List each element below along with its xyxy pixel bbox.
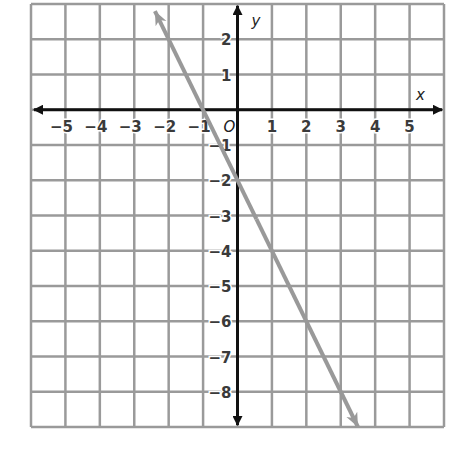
y-tick-label: 2 <box>221 31 231 49</box>
y-tick-label: −5 <box>208 278 231 296</box>
y-axis-label: y <box>251 12 262 30</box>
x-tick-label: 4 <box>370 118 380 136</box>
x-tick-label: 2 <box>301 118 311 136</box>
x-tick-label: −3 <box>119 118 142 136</box>
origin-label: O <box>224 118 236 136</box>
x-tick-label: 1 <box>267 118 277 136</box>
y-tick-label: −2 <box>208 172 231 190</box>
x-tick-label: 5 <box>404 118 414 136</box>
y-tick-label: −3 <box>208 208 231 226</box>
y-tick-label: 1 <box>221 67 231 85</box>
x-tick-label: 3 <box>336 118 346 136</box>
y-tick-label: −8 <box>208 384 231 402</box>
y-tick-label: −4 <box>208 243 231 261</box>
line-segment <box>155 11 257 219</box>
coordinate-plane: −5−4−3−2−11234521−1−2−3−4−5−6−7−8Oyx <box>0 0 462 453</box>
x-axis-label: x <box>415 86 425 104</box>
y-tick-label: −7 <box>208 349 231 367</box>
y-tick-label: −6 <box>208 313 231 331</box>
x-tick-label: −5 <box>50 118 73 136</box>
x-tick-label: −2 <box>153 118 176 136</box>
x-tick-label: −4 <box>84 118 107 136</box>
